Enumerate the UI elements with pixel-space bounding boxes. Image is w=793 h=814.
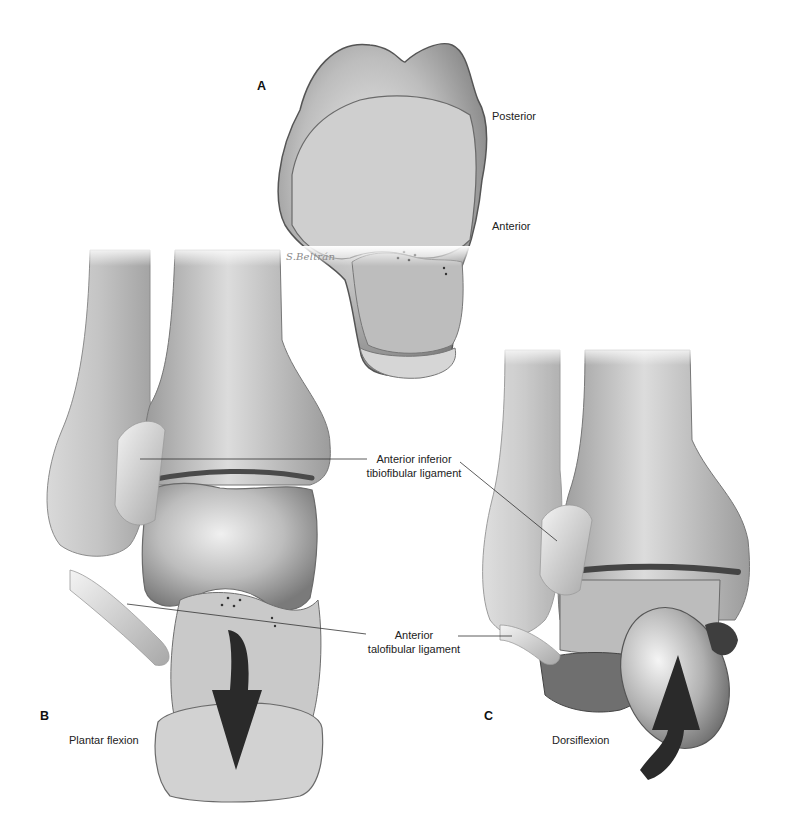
label-posterior: Posterior: [492, 109, 536, 123]
annotation-atfl-line1: Anterior: [362, 628, 466, 642]
artist-signature: S.Beltrán: [286, 251, 335, 262]
annotation-aitfl-line2: tibiofibular ligament: [362, 466, 466, 480]
annotation-aitfl: Anterior inferior tibiofibular ligament: [362, 452, 466, 480]
caption-plantar-flexion: Plantar flexion: [69, 733, 139, 747]
label-anterior: Anterior: [492, 219, 531, 233]
annotation-atfl: Anterior talofibular ligament: [362, 628, 466, 656]
caption-dorsiflexion: Dorsiflexion: [552, 733, 609, 747]
panel-letter-b: B: [40, 709, 49, 723]
panel-a-talus: [278, 44, 487, 379]
panel-c-ankle: [470, 345, 793, 780]
illustration: [0, 0, 793, 814]
panel-letter-a: A: [257, 79, 266, 93]
annotation-atfl-line2: talofibular ligament: [362, 642, 466, 656]
panel-letter-c: C: [484, 709, 493, 723]
ankle-anatomy-figure: A Posterior Anterior S.Beltrán Anterior …: [0, 0, 793, 814]
annotation-aitfl-line1: Anterior inferior: [362, 452, 466, 466]
